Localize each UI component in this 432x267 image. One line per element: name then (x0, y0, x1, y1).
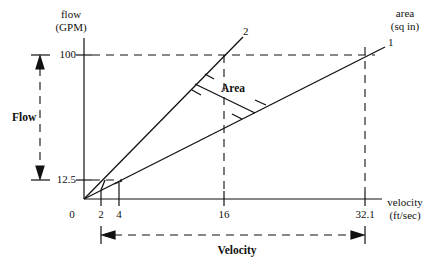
area-annotation-label: Area (221, 82, 245, 94)
x-tick-label-0: 0 (69, 208, 75, 220)
line-1 (84, 47, 385, 199)
area-series-title-line2: (sq in) (391, 20, 420, 33)
flow-arrow-up-icon (36, 56, 44, 69)
velocity-arrow-left-icon (102, 231, 115, 239)
area-hatch-4 (232, 114, 242, 119)
x-axis-title-line2: (ft/sec) (389, 209, 420, 222)
line-2-label: 2 (243, 25, 249, 37)
area-hatch-2 (192, 90, 201, 95)
x-tick-label-4: 4 (116, 208, 122, 220)
flow-velocity-area-diagram: flow (GPM) 100 12.5 0 2 4 16 32.1 veloci… (0, 0, 432, 267)
flow-range-label: Flow (12, 111, 37, 123)
area-hatch-1 (205, 74, 214, 79)
x-tick-label-16: 16 (219, 208, 231, 220)
line-1-label: 1 (388, 36, 394, 48)
x-axis-title-line1: velocity (387, 196, 423, 208)
area-series-title-line1: area (396, 7, 414, 19)
velocity-arrow-right-icon (351, 231, 364, 239)
velocity-range-label: Velocity (217, 244, 256, 257)
flow-arrow-down-icon (36, 166, 44, 179)
line-2 (84, 37, 243, 199)
y-axis-title-line1: flow (61, 8, 81, 20)
x-tick-label-2: 2 (98, 208, 104, 220)
diagram-canvas: flow (GPM) 100 12.5 0 2 4 16 32.1 veloci… (0, 0, 432, 267)
area-hatch-3 (255, 100, 266, 105)
x-tick-label-32-1: 32.1 (355, 208, 374, 220)
y-tick-label-100: 100 (60, 48, 77, 60)
y-axis-title-line2: (GPM) (55, 21, 87, 34)
y-tick-label-12-5: 12.5 (57, 173, 77, 185)
